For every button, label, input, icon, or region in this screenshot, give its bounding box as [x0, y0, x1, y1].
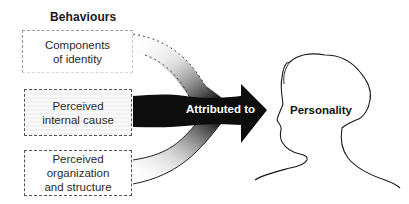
box-label-line: and structure: [44, 180, 111, 194]
attribution-diagram: Behaviours Components of identity Percei…: [0, 0, 409, 204]
behaviours-heading: Behaviours: [50, 10, 116, 24]
box-label-line: Components: [45, 38, 110, 52]
box-label-line: internal cause: [42, 113, 114, 127]
box-label-line: Perceived: [42, 99, 114, 113]
attributed-to-label: Attributed to: [186, 103, 255, 115]
box-label-line: Perceived: [44, 152, 111, 166]
head-silhouette: [282, 54, 400, 188]
perceived-organization-box: Perceived organization and structure: [24, 150, 132, 196]
personality-label: Personality: [290, 104, 352, 116]
box-label-line: organization: [44, 166, 111, 180]
box-label-line: of identity: [45, 52, 110, 66]
face-profile: [255, 78, 307, 180]
upper-arrow-band: [133, 34, 222, 98]
perceived-internal-cause-box: Perceived internal cause: [24, 89, 132, 136]
components-of-identity-box: Components of identity: [22, 30, 133, 73]
lower-arrow-band: [133, 122, 222, 184]
